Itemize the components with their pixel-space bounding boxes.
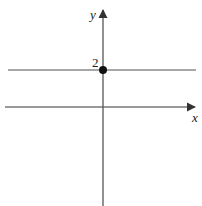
coordinate-plane: y x 2 [0, 0, 202, 206]
x-axis-label: x [191, 110, 198, 125]
point-y-intercept [99, 66, 107, 74]
point-label: 2 [92, 55, 99, 70]
y-axis-label: y [88, 7, 96, 22]
